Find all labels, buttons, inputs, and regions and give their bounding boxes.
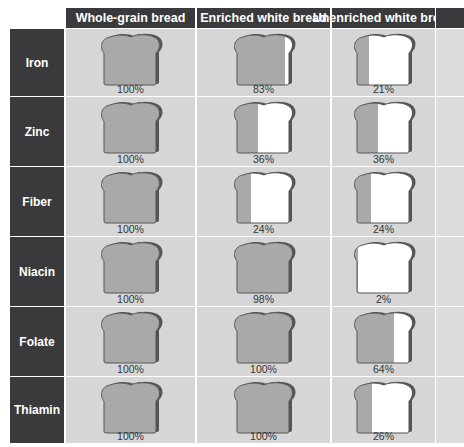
cell-zinc-0: 100%: [66, 97, 195, 166]
bread-slice-icon: [351, 381, 417, 435]
row-label-thiamin: Thiamin: [10, 377, 64, 443]
percent-label: 100%: [197, 363, 330, 375]
bread-slice-icon: [231, 33, 297, 87]
bread-slice-icon: [98, 171, 164, 225]
row-label-niacin: Niacin: [10, 237, 64, 306]
bread-slice-icon: [351, 171, 417, 225]
percent-label: 100%: [66, 293, 195, 305]
percent-label: 64%: [332, 363, 435, 375]
percent-label: 100%: [66, 83, 195, 95]
row-label-folate: Folate: [10, 307, 64, 376]
column-header-extra: [436, 8, 464, 28]
bread-slice-icon: [98, 311, 164, 365]
extra-column-cell: [436, 377, 464, 443]
extra-column-cell: [436, 97, 464, 166]
cell-zinc-2: 36%: [332, 97, 435, 166]
percent-label: 100%: [66, 430, 195, 442]
bread-slice-icon: [351, 101, 417, 155]
bread-slice-icon: [351, 241, 417, 295]
bread-slice-icon: [231, 241, 297, 295]
bread-slice-icon: [351, 33, 417, 87]
extra-column-cell: [436, 237, 464, 306]
percent-label: 2%: [332, 293, 435, 305]
cell-iron-1: 83%: [197, 29, 330, 96]
bread-slice-icon: [231, 101, 297, 155]
bread-slice-icon: [98, 381, 164, 435]
percent-label: 36%: [332, 153, 435, 165]
cell-thiamin-0: 100%: [66, 377, 195, 443]
cell-iron-0: 100%: [66, 29, 195, 96]
percent-label: 36%: [197, 153, 330, 165]
percent-label: 21%: [332, 83, 435, 95]
cell-fiber-0: 100%: [66, 167, 195, 236]
extra-column-cell: [436, 29, 464, 96]
bread-slice-icon: [98, 241, 164, 295]
percent-label: 100%: [66, 363, 195, 375]
row-label-zinc: Zinc: [10, 97, 64, 166]
percent-label: 100%: [66, 153, 195, 165]
percent-label: 26%: [332, 430, 435, 442]
column-header-1: Enriched white bread: [197, 8, 330, 28]
cell-thiamin-2: 26%: [332, 377, 435, 443]
bread-slice-icon: [351, 311, 417, 365]
percent-label: 24%: [332, 223, 435, 235]
row-label-fiber: Fiber: [10, 167, 64, 236]
bread-slice-icon: [231, 381, 297, 435]
column-header-2: Unenriched white bread: [332, 8, 435, 28]
cell-folate-0: 100%: [66, 307, 195, 376]
bread-slice-icon: [98, 33, 164, 87]
cell-niacin-2: 2%: [332, 237, 435, 306]
bread-slice-icon: [231, 171, 297, 225]
bread-slice-icon: [98, 101, 164, 155]
percent-label: 24%: [197, 223, 330, 235]
cell-iron-2: 21%: [332, 29, 435, 96]
cell-niacin-1: 98%: [197, 237, 330, 306]
cell-folate-1: 100%: [197, 307, 330, 376]
percent-label: 83%: [197, 83, 330, 95]
bread-slice-icon: [231, 311, 297, 365]
extra-column-cell: [436, 307, 464, 376]
cell-thiamin-1: 100%: [197, 377, 330, 443]
extra-column-cell: [436, 167, 464, 236]
column-header-0: Whole-grain bread: [66, 8, 195, 28]
percent-label: 98%: [197, 293, 330, 305]
percent-label: 100%: [197, 430, 330, 442]
percent-label: 100%: [66, 223, 195, 235]
cell-zinc-1: 36%: [197, 97, 330, 166]
cell-fiber-1: 24%: [197, 167, 330, 236]
cell-niacin-0: 100%: [66, 237, 195, 306]
row-label-iron: Iron: [10, 29, 64, 96]
cell-fiber-2: 24%: [332, 167, 435, 236]
cell-folate-2: 64%: [332, 307, 435, 376]
